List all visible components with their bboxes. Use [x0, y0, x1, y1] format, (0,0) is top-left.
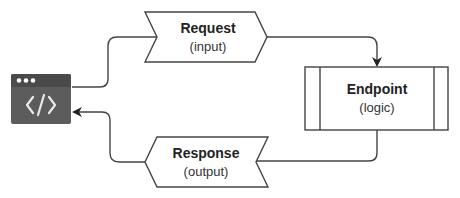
request-node[interactable]: Request (input) — [145, 12, 267, 62]
request-subtitle: (input) — [190, 39, 227, 54]
endpoint-node[interactable]: Endpoint (logic) — [305, 67, 448, 130]
request-title: Request — [180, 20, 236, 36]
window-dot-icon — [24, 78, 29, 83]
response-subtitle: (output) — [184, 164, 229, 179]
flow-diagram: Request (input) Endpoint (logic) Respons… — [0, 0, 460, 198]
response-title: Response — [173, 145, 240, 161]
connector-response-to-client — [74, 112, 145, 162]
endpoint-subtitle: (logic) — [359, 100, 394, 115]
response-node[interactable]: Response (output) — [145, 137, 268, 187]
connector-request-to-endpoint — [267, 37, 377, 65]
window-dot-icon — [17, 78, 22, 83]
client-browser-icon — [11, 74, 71, 124]
endpoint-title: Endpoint — [347, 81, 408, 97]
window-dot-icon — [31, 78, 36, 83]
connector-endpoint-to-response — [256, 130, 377, 161]
endpoint-shape — [305, 67, 448, 130]
